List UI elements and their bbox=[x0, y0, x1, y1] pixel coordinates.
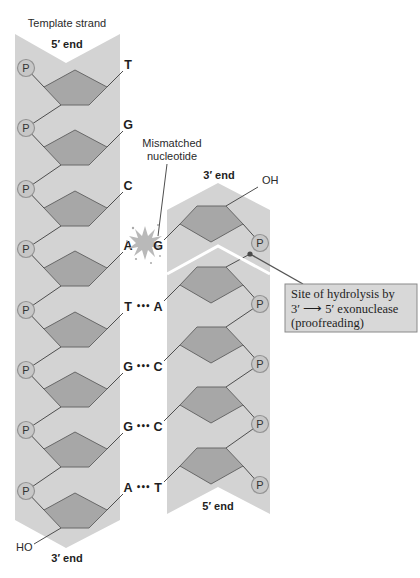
new-strand-3prime-end-label: 3′ end bbox=[203, 169, 234, 181]
template-base: A bbox=[123, 239, 132, 253]
template-base: G bbox=[123, 118, 133, 132]
new-strand-base: A bbox=[153, 300, 162, 314]
phosphate-group: P bbox=[18, 362, 35, 379]
callout-text-line-2: 3′ ⟶ 5′ exonuclease bbox=[291, 302, 399, 316]
phosphate-label: P bbox=[22, 122, 29, 134]
phosphate-label: P bbox=[22, 424, 29, 436]
phosphate-group: P bbox=[18, 120, 35, 137]
new-strand: P P P P P G A C C T 3′ end OH 5′ end bbox=[153, 169, 278, 514]
hydrogen-bonds: ••• ••• ••• ••• bbox=[136, 302, 150, 492]
hydrogen-bond-dots: ••• bbox=[136, 302, 150, 311]
new-strand-hydroxyl-label: OH bbox=[262, 174, 279, 186]
phosphate-label: P bbox=[22, 304, 29, 316]
phosphate-group: P bbox=[252, 356, 269, 373]
phosphate-label: P bbox=[22, 243, 29, 255]
phosphate-label: P bbox=[22, 485, 29, 497]
phosphate-group: P bbox=[18, 181, 35, 198]
new-strand-5prime-end-label: 5′ end bbox=[202, 500, 233, 512]
new-strand-base: C bbox=[153, 420, 162, 434]
callout-text-line-3: (proofreading) bbox=[291, 316, 364, 330]
hydrolysis-site-marker bbox=[247, 251, 252, 256]
phosphate-group: P bbox=[252, 235, 269, 252]
phosphate-label: P bbox=[256, 298, 263, 310]
mismatch-label-line-2: nucleotide bbox=[147, 150, 197, 162]
template-strand-backbone-band bbox=[15, 34, 120, 548]
phosphate-group: P bbox=[18, 483, 35, 500]
phosphate-label: P bbox=[256, 418, 263, 430]
hydrogen-bond-dots: ••• bbox=[136, 362, 150, 371]
new-strand-base-mismatched: G bbox=[153, 239, 163, 253]
mismatch-label-line-1: Mismatched bbox=[142, 137, 201, 149]
new-strand-base: C bbox=[153, 360, 162, 374]
phosphate-label: P bbox=[22, 183, 29, 195]
template-strand-title: Template strand bbox=[28, 17, 106, 29]
new-strand-base: T bbox=[154, 481, 162, 495]
template-base: G bbox=[123, 420, 133, 434]
template-strand-5prime-end-label: 5′ end bbox=[51, 38, 82, 50]
template-strand-3prime-end-label: 3′ end bbox=[51, 552, 82, 564]
phosphate-group: P bbox=[18, 60, 35, 77]
phosphate-group: P bbox=[252, 296, 269, 313]
callout-text-line-1: Site of hydrolysis by bbox=[291, 287, 396, 301]
phosphate-group: P bbox=[252, 416, 269, 433]
template-base: T bbox=[124, 58, 132, 72]
template-strand: P P P P P P P P T G C A T G G A Template… bbox=[15, 17, 133, 564]
hydrolysis-callout: Site of hydrolysis by 3′ ⟶ 5′ exonucleas… bbox=[247, 251, 417, 332]
phosphate-label: P bbox=[256, 237, 263, 249]
template-base: G bbox=[123, 360, 133, 374]
phosphate-label: P bbox=[256, 358, 263, 370]
hydrogen-bond-dots: ••• bbox=[136, 483, 150, 492]
template-hydroxyl-label: HO bbox=[16, 541, 33, 553]
mismatch-leader-line bbox=[158, 164, 167, 236]
phosphate-label: P bbox=[22, 364, 29, 376]
phosphate-label: P bbox=[22, 62, 29, 74]
phosphate-group: P bbox=[18, 241, 35, 258]
template-base: A bbox=[123, 481, 132, 495]
phosphate-label: P bbox=[256, 479, 263, 491]
phosphate-group: P bbox=[252, 477, 269, 494]
template-base: C bbox=[123, 179, 132, 193]
phosphate-group: P bbox=[18, 422, 35, 439]
template-base: T bbox=[124, 300, 132, 314]
hydrogen-bond-dots: ••• bbox=[136, 422, 150, 431]
dna-proofreading-diagram: P P P P P P P P T G C A T G G A Template… bbox=[0, 0, 420, 578]
phosphate-group: P bbox=[18, 302, 35, 319]
